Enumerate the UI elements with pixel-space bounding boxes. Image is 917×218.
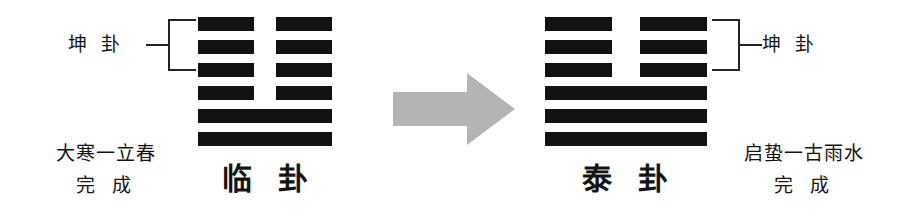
hex-line-4 — [545, 63, 707, 77]
hex-line-1 — [198, 132, 332, 146]
bracket-spine — [738, 19, 740, 71]
right-solar-terms: 启蛰一古雨水 完 成 — [716, 144, 892, 195]
left-hexagram-name: 临 卦 — [222, 164, 316, 194]
right-solar-terms-line2: 完 成 — [716, 176, 892, 195]
right-solar-terms-line1: 启蛰一古雨水 — [716, 144, 892, 163]
hexagram-lin — [198, 17, 332, 146]
hex-line-4 — [198, 63, 332, 77]
hex-line-2 — [545, 109, 707, 123]
right-hexagram-name: 泰 卦 — [582, 164, 676, 194]
right-arrow-icon — [393, 71, 515, 147]
left-solar-terms-line1: 大寒一立春 — [36, 144, 176, 163]
left-solar-terms: 大寒一立春 完 成 — [36, 144, 176, 195]
hexagram-tai — [545, 17, 707, 146]
hex-line-3 — [198, 86, 332, 100]
hex-line-3 — [545, 86, 707, 100]
bracket-arm-bottom — [168, 69, 196, 71]
hex-line-5 — [545, 40, 707, 54]
left-solar-terms-line2: 完 成 — [36, 176, 176, 195]
hex-line-1 — [545, 132, 707, 146]
hex-line-2 — [198, 109, 332, 123]
left-trigram-label: 坤 卦 — [68, 35, 124, 54]
bracket-arm-top — [168, 19, 196, 21]
bracket-arm-bottom — [712, 69, 740, 71]
bracket-stem — [740, 44, 762, 46]
bracket-stem — [146, 44, 168, 46]
right-trigram-label: 坤 卦 — [762, 35, 818, 54]
hex-line-5 — [198, 40, 332, 54]
bracket-spine — [168, 19, 170, 71]
right-upper-trigram-bracket — [712, 19, 740, 71]
hex-line-6 — [198, 17, 332, 31]
left-upper-trigram-bracket — [168, 19, 196, 71]
diagram-canvas: 坤 卦 临 卦 大寒一立春 完 成 坤 — [0, 0, 917, 218]
bracket-arm-top — [712, 19, 740, 21]
hex-line-6 — [545, 17, 707, 31]
